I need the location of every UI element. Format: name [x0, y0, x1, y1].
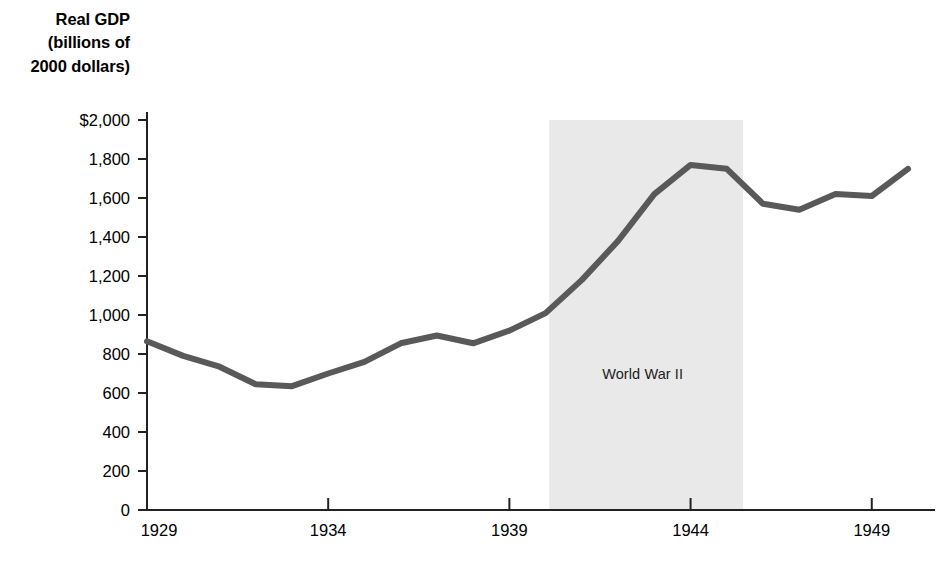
y-tick-label: 1,600 [89, 189, 130, 207]
y-tick-label: 1,400 [89, 228, 130, 246]
y-tick-label: 1,000 [89, 306, 130, 324]
y-tick-label: 600 [102, 384, 130, 402]
x-tick-label: 1949 [853, 521, 890, 539]
y-tick-label: 800 [102, 345, 130, 363]
y-axis-title: Real GDP (billions of 2000 dollars) [0, 8, 130, 78]
ww2-shaded-band [549, 120, 743, 510]
x-axis-ticks: 19291934193919441949 [141, 498, 890, 539]
x-tick-label: 1944 [672, 521, 709, 539]
y-tick-label: 1,200 [89, 267, 130, 285]
x-tick-label: 1934 [310, 521, 347, 539]
x-tick-label: 1929 [141, 521, 178, 539]
chart-plot-area: $2,0001,8001,6001,4001,2001,000800600400… [0, 0, 940, 562]
ww2-annotation-label: World War II [0, 366, 940, 382]
y-tick-label: 400 [102, 423, 130, 441]
y-tick-label: 1,800 [89, 150, 130, 168]
y-tick-label: 200 [102, 462, 130, 480]
gdp-line-chart: Real GDP (billions of 2000 dollars) $2,0… [0, 0, 940, 562]
gdp-data-line [147, 165, 908, 386]
x-tick-label: 1939 [491, 521, 528, 539]
y-axis-ticks: $2,0001,8001,6001,4001,2001,000800600400… [80, 111, 147, 519]
y-tick-label: 0 [121, 501, 130, 519]
y-tick-label: $2,000 [80, 111, 130, 129]
